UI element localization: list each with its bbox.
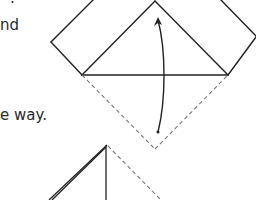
folded-left-edge xyxy=(49,145,107,200)
figure-2 xyxy=(49,145,160,200)
dashed-right-edge xyxy=(108,146,160,199)
dashed-hidden-triangle xyxy=(82,75,228,149)
outer-square-outline xyxy=(51,0,256,75)
figure-1 xyxy=(51,0,256,149)
folded-triangle xyxy=(82,1,228,75)
origami-diagram xyxy=(0,0,256,200)
